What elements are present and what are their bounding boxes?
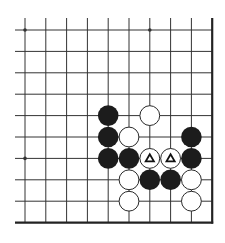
black-stone [119, 148, 140, 169]
black-stone [181, 148, 202, 169]
star-point [23, 28, 27, 32]
white-stone-disc [140, 106, 160, 126]
white-stone-disc [182, 170, 202, 190]
white-stone [119, 127, 139, 147]
white-stone [140, 106, 160, 126]
black-stone [98, 148, 119, 169]
black-stone-disc [98, 148, 119, 169]
white-stone-marked [140, 149, 160, 169]
black-stone [181, 127, 202, 148]
go-board-svg [0, 0, 225, 243]
black-stone [140, 170, 161, 191]
black-stone [98, 127, 119, 148]
black-stone [160, 170, 181, 191]
white-stone-disc [161, 149, 181, 169]
black-stone-disc [98, 127, 119, 148]
black-stone-disc [160, 170, 181, 191]
star-point [148, 28, 152, 32]
white-stone-disc [182, 191, 202, 211]
star-point [23, 157, 27, 161]
white-stone-disc [119, 191, 139, 211]
white-stone [119, 170, 139, 190]
black-stone-disc [98, 105, 119, 126]
black-stone-disc [119, 148, 140, 169]
white-stone-disc [119, 170, 139, 190]
white-stone-disc [119, 127, 139, 147]
black-stone [98, 105, 119, 126]
white-stone [182, 191, 202, 211]
black-stone-disc [181, 127, 202, 148]
white-stone [182, 170, 202, 190]
white-stone-disc [140, 149, 160, 169]
go-board-diagram [0, 0, 225, 243]
white-stone-marked [161, 149, 181, 169]
black-stone-disc [181, 148, 202, 169]
white-stone [119, 191, 139, 211]
black-stone-disc [140, 170, 161, 191]
